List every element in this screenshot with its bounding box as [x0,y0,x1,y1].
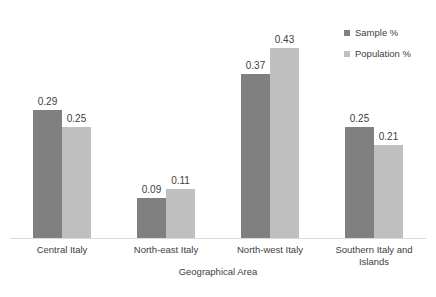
bar-population[interactable] [62,127,91,238]
x-axis-title: Geographical Area [0,266,436,277]
bar-chart: 0.290.250.090.110.370.430.250.21 Central… [0,0,436,297]
x-axis-tick-label: Central Italy [10,244,114,256]
bar-group: 0.290.25 [33,8,91,238]
bar-wrapper: 0.09 [137,8,166,238]
bar-value-label: 0.43 [265,34,305,46]
bar-sample[interactable] [241,74,270,238]
bar-population[interactable] [166,189,195,238]
x-axis-tick-label: North-east Italy [114,244,218,256]
chart-legend: Sample % Population % [344,24,436,66]
x-axis-tick-label: North-west Italy [218,244,322,256]
bar-wrapper: 0.11 [166,8,195,238]
x-axis-baseline [10,238,426,239]
legend-item-sample[interactable]: Sample % [344,24,436,41]
bar-population[interactable] [270,48,299,238]
bar-population[interactable] [374,145,403,238]
legend-label-population: Population % [355,48,411,59]
legend-swatch-population [344,51,350,57]
legend-swatch-sample [344,30,350,36]
bar-wrapper: 0.43 [270,8,299,238]
legend-item-population[interactable]: Population % [344,45,436,62]
legend-label-sample: Sample % [355,27,398,38]
bar-wrapper: 0.25 [62,8,91,238]
bar-group: 0.090.11 [137,8,195,238]
bar-sample[interactable] [33,110,62,238]
x-axis-tick-label: Southern Italy and Islands [322,244,426,268]
bar-sample[interactable] [137,198,166,238]
bar-group: 0.370.43 [241,8,299,238]
bar-value-label: 0.11 [161,175,201,187]
bar-sample[interactable] [345,127,374,238]
bar-value-label: 0.21 [369,131,409,143]
bar-value-label: 0.25 [57,113,97,125]
